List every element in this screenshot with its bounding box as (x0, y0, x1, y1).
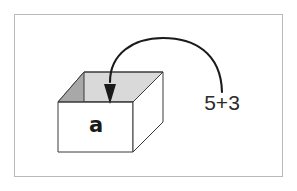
diagram-figure (0, 0, 297, 191)
expression-label: 5+3 (196, 92, 248, 113)
diagram-canvas: a 5+3 (0, 0, 297, 191)
box-variable-label: a (78, 115, 114, 136)
